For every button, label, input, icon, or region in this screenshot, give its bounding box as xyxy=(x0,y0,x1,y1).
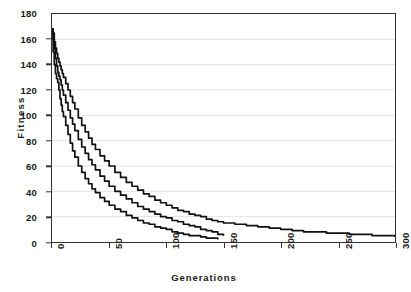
series-line xyxy=(52,29,218,239)
series-lines xyxy=(52,29,395,239)
x-tick-mark xyxy=(339,243,340,248)
x-tick-mark xyxy=(109,243,110,248)
x-axis-title: Generations xyxy=(0,272,408,283)
plot-area xyxy=(51,13,396,243)
x-tick-label: 0 xyxy=(55,244,66,249)
x-tick-mark xyxy=(51,243,52,248)
y-tick-label: 40 xyxy=(26,186,37,197)
y-axis-title: Fitness xyxy=(15,78,26,158)
x-tick-label: 150 xyxy=(228,233,239,249)
y-tick-label: 80 xyxy=(26,135,37,146)
x-tick-label: 200 xyxy=(285,233,296,249)
x-tick-mark xyxy=(224,243,225,248)
x-tick-label: 50 xyxy=(113,238,124,249)
y-tick-label: 20 xyxy=(26,212,37,223)
x-axis-tick-labels: 050100150200250300 xyxy=(0,243,408,273)
y-tick-label: 180 xyxy=(21,8,37,19)
gridlines xyxy=(52,39,395,216)
x-tick-label: 250 xyxy=(343,233,354,249)
y-tick-label: 160 xyxy=(21,33,37,44)
plot-svg xyxy=(52,14,395,242)
y-tick-label: 140 xyxy=(21,59,37,70)
x-tick-label: 100 xyxy=(170,233,181,249)
x-tick-mark xyxy=(281,243,282,248)
x-tick-label: 300 xyxy=(400,233,411,249)
series-line xyxy=(52,29,224,235)
x-tick-mark xyxy=(166,243,167,248)
x-tick-mark xyxy=(396,243,397,248)
series-line xyxy=(52,29,395,237)
y-tick-label: 60 xyxy=(26,161,37,172)
